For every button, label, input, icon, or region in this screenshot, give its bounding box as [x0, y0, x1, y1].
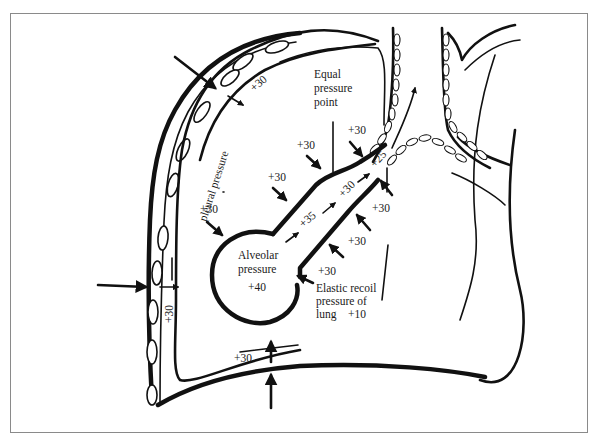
pleural-bottom-value: +30: [234, 352, 252, 364]
alveolar-pressure-value: +40: [248, 281, 266, 293]
equal-pressure-point-label-2: pressure: [314, 82, 352, 95]
airway-cartilage-chains: [369, 28, 490, 168]
pleural-top-value: +30: [248, 73, 270, 94]
alveolar-pressure-label-2: pressure: [238, 263, 276, 276]
pressure-around-1: +30: [200, 203, 218, 215]
elastic-recoil-value: +10: [348, 308, 366, 320]
pressure-around-6: +30: [348, 235, 366, 247]
elastic-recoil-label-2: pressure of: [316, 295, 367, 308]
lung-pressure-diagram: Equal pressure point pleural pressure +3…: [0, 0, 597, 442]
airway-pressure-30: +30: [336, 178, 357, 199]
alveolar-pressure-label-1: Alveolar: [238, 249, 278, 261]
elastic-recoil-label-3: lung: [316, 308, 337, 321]
elastic-recoil-label-1: Elastic recoil: [316, 282, 376, 294]
chest-wall-cells: [147, 39, 290, 405]
equal-pressure-point-label-3: point: [314, 96, 338, 109]
chest-wall: [147, 33, 300, 405]
pressure-around-2: +30: [268, 171, 286, 183]
pleural-side-value: +30: [163, 305, 175, 323]
diaphragm: [158, 365, 485, 405]
pressure-around-7: +30: [318, 265, 336, 277]
pressure-around-5: +30: [372, 202, 390, 214]
chest-compression-arrow-side: [98, 285, 146, 287]
pressure-around-3: +30: [297, 139, 315, 151]
pressure-around-4: +30: [348, 124, 366, 136]
airway-pressure-35: +35: [297, 209, 319, 230]
equal-pressure-point-label-1: Equal: [314, 68, 341, 81]
